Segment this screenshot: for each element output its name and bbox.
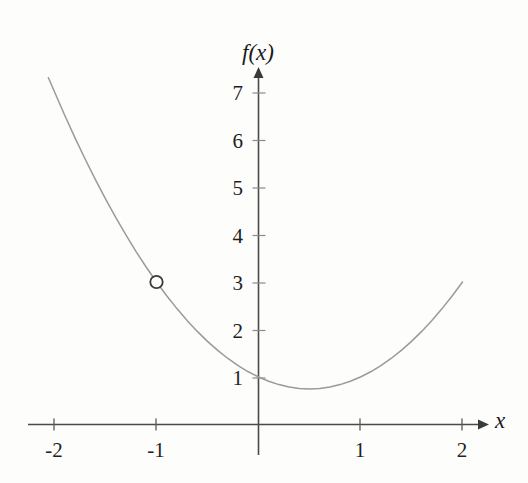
y-tick-label-5: 5 (233, 178, 244, 199)
y-tick-label-6: 6 (233, 130, 244, 151)
y-axis (253, 67, 266, 455)
y-tick-label-7: 7 (233, 83, 244, 104)
x-axis-arrowhead (478, 420, 489, 430)
y-tick-label-4: 4 (233, 225, 244, 246)
function-curve (48, 78, 462, 389)
open-circle-marker (150, 276, 162, 288)
function-plot (0, 0, 528, 483)
y-axis-arrowhead (254, 67, 264, 78)
x-axis-title: x (495, 409, 505, 432)
x-tick-label-1: 1 (355, 440, 366, 461)
y-axis-title: f(x) (242, 41, 274, 64)
x-tick-label--1: -1 (147, 440, 165, 461)
y-tick-label-1: 1 (233, 368, 244, 389)
y-tick-label-3: 3 (233, 273, 244, 294)
figure-canvas: 7 6 5 4 3 2 1 -2 -1 1 2 f(x) x (0, 0, 528, 483)
x-tick-label--2: -2 (45, 440, 63, 461)
x-tick-label-2: 2 (457, 440, 468, 461)
y-tick-label-2: 2 (233, 320, 244, 341)
